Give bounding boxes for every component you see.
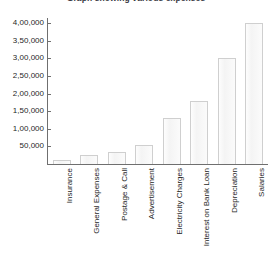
y-axis-tick-label: 2,00,000 xyxy=(0,90,44,98)
y-axis-tick-label: 50,000 xyxy=(0,142,44,150)
x-axis-category-label: Postage & Call xyxy=(121,168,129,221)
y-axis-tick-label: 1,00,000 xyxy=(0,125,44,133)
x-axis-category-label: Depreciation xyxy=(231,168,239,213)
y-axis-tick-mark xyxy=(48,129,51,130)
y-axis-tick-label: 1,50,000 xyxy=(0,107,44,115)
x-axis-category-label: Interest on Bank Loan xyxy=(203,168,211,246)
chart-title: Graph showing various expenses xyxy=(0,0,272,3)
bar xyxy=(135,145,153,164)
y-axis-tick-mark xyxy=(48,76,51,77)
y-axis-tick-label: 2,50,000 xyxy=(0,72,44,80)
y-axis-tick-label: 3,00,000 xyxy=(0,54,44,62)
x-axis-category-label: General Expenses xyxy=(93,168,101,234)
y-axis-tick-mark xyxy=(48,111,51,112)
bar-chart: Graph showing various expenses 50,0001,0… xyxy=(0,0,272,268)
x-axis-category-label: Insurance xyxy=(66,168,74,203)
y-axis-tick-mark xyxy=(48,146,51,147)
bar xyxy=(108,152,126,164)
x-axis-category-label: Advertisement xyxy=(148,168,156,219)
bar xyxy=(80,155,98,164)
y-axis-tick-label: 4,00,000 xyxy=(0,19,44,27)
bar xyxy=(163,118,181,164)
x-axis-category-label: Salaries xyxy=(258,168,266,197)
y-axis-tick-mark xyxy=(48,41,51,42)
bar xyxy=(190,101,208,164)
x-axis-line xyxy=(47,164,268,165)
x-axis-category-label: Electricity Charges xyxy=(176,168,184,235)
bar xyxy=(245,23,263,164)
bar xyxy=(218,58,236,164)
y-axis-tick-mark xyxy=(48,94,51,95)
y-axis-tick-mark xyxy=(48,58,51,59)
bar xyxy=(53,160,71,164)
y-axis-tick-label: 3,50,000 xyxy=(0,37,44,45)
y-axis-tick-mark xyxy=(48,23,51,24)
